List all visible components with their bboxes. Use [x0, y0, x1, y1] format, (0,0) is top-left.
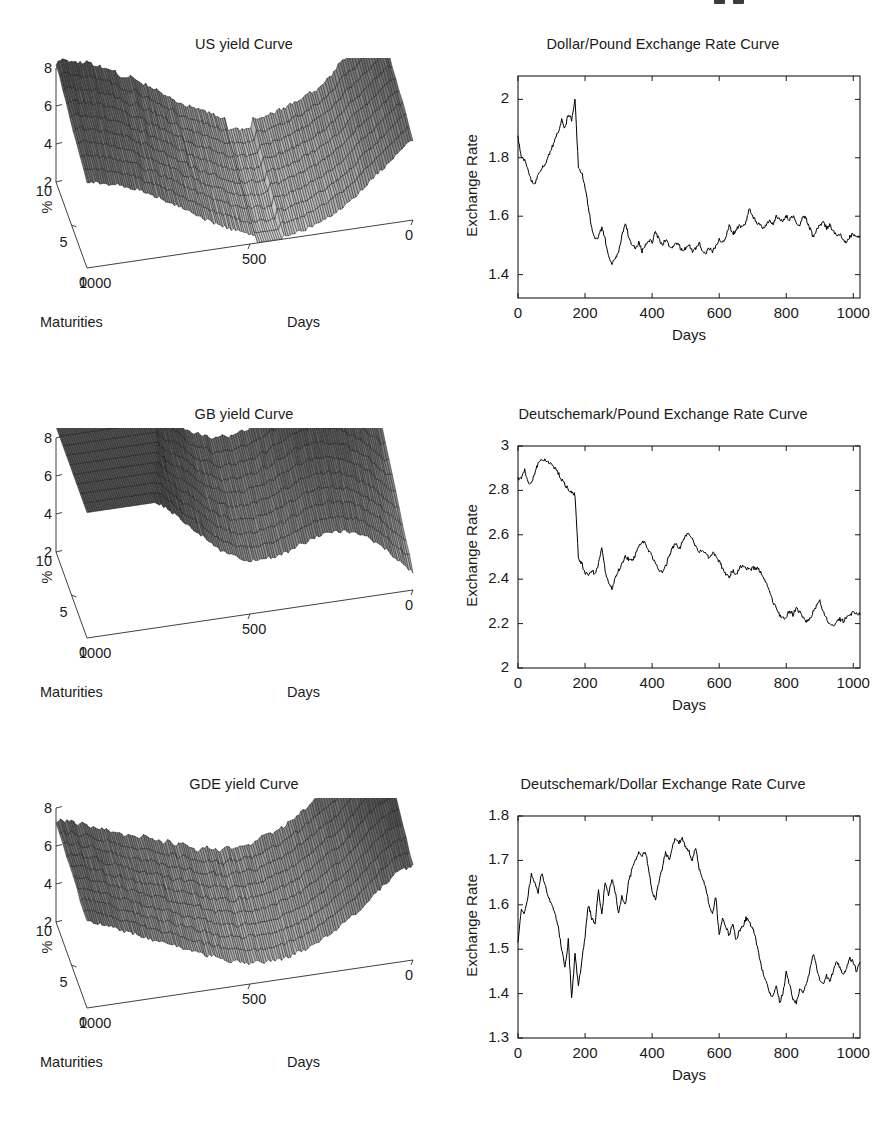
maturity-tick-label: 5 — [44, 604, 68, 620]
x-axis-label: Days — [488, 326, 885, 343]
surface-stage: 8642105010005000%MaturitiesDays — [24, 798, 464, 1116]
panel-gb-yield-curve: GB yield Curve 8642105010005000%Maturiti… — [24, 406, 464, 746]
days-tick-label: 500 — [242, 621, 266, 637]
days-axis-label: Days — [287, 1054, 320, 1070]
x-tick-label: 1000 — [823, 304, 883, 321]
z-tick-label: 6 — [32, 838, 52, 854]
x-tick-label: 0 — [488, 304, 548, 321]
z-tick-label: 8 — [32, 800, 52, 816]
surface-stage: 8642105010005000%MaturitiesDays — [24, 58, 464, 376]
x-tick-label: 800 — [756, 1044, 816, 1061]
days-tick-label: 1000 — [79, 645, 111, 661]
z-tick-label: 8 — [32, 60, 52, 76]
maturity-tick-label: 5 — [44, 234, 68, 250]
x-tick-label: 400 — [622, 674, 682, 691]
x-tick-label: 0 — [488, 1044, 548, 1061]
maturities-axis-label: Maturities — [40, 314, 103, 330]
x-tick-label: 200 — [555, 304, 615, 321]
line-stage: 1.31.41.51.61.71.802004006008001000Excha… — [448, 798, 878, 1116]
panel-deutschemark-dollar: Deutschemark/Dollar Exchange Rate Curve … — [448, 776, 878, 1116]
y-tick-label: 2 — [448, 658, 509, 675]
maturities-axis-label: Maturities — [40, 684, 103, 700]
panel-gde-yield-curve: GDE yield Curve 8642105010005000%Maturit… — [24, 776, 464, 1116]
panel-title: Dollar/Pound Exchange Rate Curve — [448, 36, 878, 53]
surface-stage: 8642105010005000%MaturitiesDays — [24, 428, 464, 746]
y-axis-label: Exchange Rate — [463, 851, 480, 1001]
z-axis-label: % — [39, 566, 55, 588]
z-tick-label: 6 — [32, 468, 52, 484]
days-axis-label: Days — [287, 684, 320, 700]
maturity-tick-label: 5 — [44, 974, 68, 990]
days-tick-label: 0 — [405, 967, 413, 983]
line-stage: 1.41.61.8202004006008001000Exchange Rate… — [448, 58, 878, 376]
panel-deutschemark-pound: Deutschemark/Pound Exchange Rate Curve 2… — [448, 406, 878, 746]
x-tick-label: 600 — [689, 304, 749, 321]
days-tick-label: 500 — [242, 251, 266, 267]
z-axis-label: % — [39, 936, 55, 958]
x-tick-label: 200 — [555, 1044, 615, 1061]
x-axis-label: Days — [488, 1066, 885, 1083]
x-tick-label: 600 — [689, 674, 749, 691]
z-tick-label: 4 — [32, 136, 52, 152]
z-tick-label: 8 — [32, 430, 52, 446]
y-axis-label: Exchange Rate — [463, 111, 480, 261]
panel-title: Deutschemark/Pound Exchange Rate Curve — [448, 406, 878, 423]
days-axis-label: Days — [287, 314, 320, 330]
x-tick-label: 400 — [622, 304, 682, 321]
panel-us-yield-curve: US yield Curve 8642105010005000%Maturiti… — [24, 36, 464, 376]
panel-dollar-pound: Dollar/Pound Exchange Rate Curve 1.41.61… — [448, 36, 878, 376]
x-tick-label: 1000 — [823, 674, 883, 691]
days-tick-label: 1000 — [79, 275, 111, 291]
x-tick-label: 600 — [689, 1044, 749, 1061]
days-tick-label: 500 — [242, 991, 266, 1007]
maturities-axis-label: Maturities — [40, 1054, 103, 1070]
days-tick-label: 0 — [405, 227, 413, 243]
days-tick-label: 1000 — [79, 1015, 111, 1031]
days-tick-label: 0 — [405, 597, 413, 613]
x-tick-label: 800 — [756, 674, 816, 691]
z-tick-label: 4 — [32, 876, 52, 892]
z-tick-label: 6 — [32, 98, 52, 114]
x-tick-label: 400 — [622, 1044, 682, 1061]
x-tick-label: 0 — [488, 674, 548, 691]
y-axis-label: Exchange Rate — [463, 481, 480, 631]
x-tick-label: 800 — [756, 304, 816, 321]
panel-title: GB yield Curve — [24, 406, 464, 423]
line-stage: 22.22.42.62.8302004006008001000Exchange … — [448, 428, 878, 746]
y-tick-label: 3 — [448, 436, 509, 453]
matlab-figure: US yield Curve 8642105010005000%Maturiti… — [0, 0, 885, 1121]
panel-title: GDE yield Curve — [24, 776, 464, 793]
z-axis-label: % — [39, 196, 55, 218]
x-tick-label: 200 — [555, 674, 615, 691]
y-tick-label: 1.4 — [448, 265, 509, 282]
x-tick-label: 1000 — [823, 1044, 883, 1061]
y-tick-label: 2 — [448, 89, 509, 106]
scan-artifact — [714, 0, 748, 6]
panel-title: US yield Curve — [24, 36, 464, 53]
y-tick-label: 1.8 — [448, 806, 509, 823]
z-tick-label: 4 — [32, 506, 52, 522]
y-tick-label: 1.3 — [448, 1028, 509, 1045]
x-axis-label: Days — [488, 696, 885, 713]
panel-title: Deutschemark/Dollar Exchange Rate Curve — [448, 776, 878, 793]
